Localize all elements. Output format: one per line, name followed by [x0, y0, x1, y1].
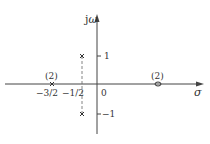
tick-label-imag-neg: −1: [102, 109, 115, 119]
imaginary-axis: [95, 14, 100, 134]
tick-label-real-neg-half: −1/2: [62, 88, 84, 98]
imag-axis-label: jω: [83, 13, 97, 26]
origin-label: 0: [101, 88, 107, 98]
tick-label-real-neg-three-halves: −3/2: [36, 88, 58, 98]
real-axis-label: σ: [194, 86, 202, 99]
pole-zero-diagram: jω σ 0 1 −1 −3/2 −1/2 (2) (2): [0, 0, 210, 144]
zero-multiplicity-label: (2): [151, 71, 164, 81]
real-axis: [5, 82, 204, 87]
tick-label-imag-pos: 1: [104, 51, 110, 61]
pole-multiplicity-label: (2): [45, 71, 58, 81]
